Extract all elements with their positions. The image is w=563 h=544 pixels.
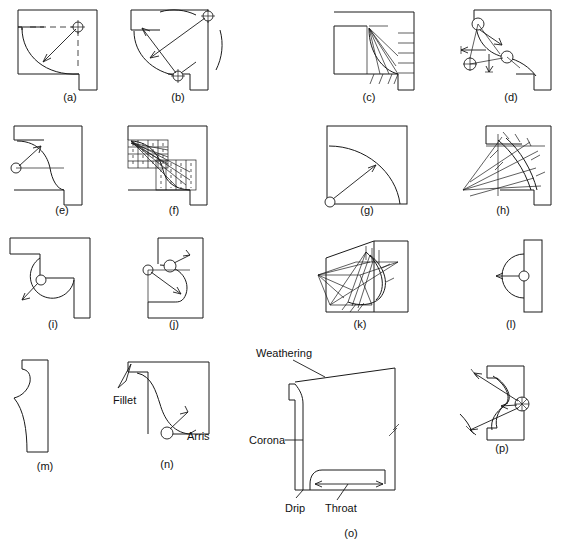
caption-i: (i) bbox=[48, 318, 58, 330]
label-drip: Drip bbox=[285, 502, 305, 514]
label-throat: Throat bbox=[325, 502, 357, 514]
panel-k: (k) bbox=[318, 241, 408, 330]
panel-i: (i) bbox=[10, 238, 90, 330]
fillet-leader bbox=[118, 364, 131, 388]
weathering-leader bbox=[293, 360, 325, 377]
drip-leader bbox=[296, 490, 303, 498]
panel-f: (f) bbox=[128, 126, 207, 216]
label-weathering: Weathering bbox=[256, 347, 312, 359]
panel-m: (m) bbox=[14, 360, 53, 472]
panel-o: Weathering Corona Drip Throat (o) bbox=[249, 347, 399, 539]
panel-p: (p) bbox=[460, 366, 529, 454]
caption-g: (g) bbox=[360, 204, 373, 216]
caption-n: (n) bbox=[160, 458, 173, 470]
panel-l: (l) bbox=[496, 240, 542, 330]
throat-leader bbox=[337, 484, 348, 500]
caption-h: (h) bbox=[496, 204, 509, 216]
caption-d: (d) bbox=[504, 91, 517, 103]
moulding-figure: (a) (b) (c) bbox=[0, 0, 563, 544]
caption-k: (k) bbox=[354, 318, 367, 330]
caption-m: (m) bbox=[37, 460, 54, 472]
label-arris: Arris bbox=[187, 430, 210, 442]
panel-d: (d) bbox=[461, 10, 551, 103]
caption-e: (e) bbox=[55, 204, 68, 216]
caption-j: (j) bbox=[169, 318, 179, 330]
caption-f: (f) bbox=[169, 204, 179, 216]
panel-c: (c) bbox=[334, 12, 414, 103]
label-corona: Corona bbox=[249, 434, 286, 446]
caption-o: (o) bbox=[344, 527, 357, 539]
caption-a: (a) bbox=[63, 91, 76, 103]
label-fillet: Fillet bbox=[113, 394, 136, 406]
panel-g: (g) bbox=[325, 126, 407, 216]
panel-h: (h) bbox=[463, 126, 551, 216]
caption-b: (b) bbox=[171, 91, 184, 103]
figure-svg: (a) (b) (c) bbox=[0, 0, 563, 544]
panel-n: Fillet Arris (n) bbox=[113, 362, 210, 470]
caption-l: (l) bbox=[506, 318, 516, 330]
panel-a: (a) bbox=[18, 10, 97, 103]
caption-p: (p) bbox=[495, 442, 508, 454]
panel-e: (e) bbox=[11, 126, 82, 216]
panel-b: (b) bbox=[131, 9, 222, 103]
caption-c: (c) bbox=[363, 91, 376, 103]
panel-j: (j) bbox=[143, 238, 203, 330]
